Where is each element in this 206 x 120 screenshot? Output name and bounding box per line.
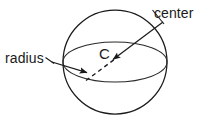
radius-arrow: [52, 62, 87, 73]
center-point-label: C: [99, 46, 110, 61]
sphere-diagram-figure: center radius C: [0, 0, 206, 120]
center-label: center: [154, 6, 194, 20]
equator-ellipse: [63, 42, 167, 82]
center-arrow: [113, 22, 163, 60]
radius-label: radius: [5, 51, 44, 65]
sphere-circle: [63, 10, 167, 114]
